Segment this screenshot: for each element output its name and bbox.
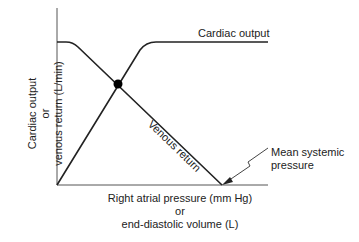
y-axis-label: Cardiac output or venous return (L/min) bbox=[26, 29, 65, 199]
msp-pointer-arrow bbox=[228, 148, 268, 181]
x-axis-label: Right atrial pressure (mm Hg) or end-dia… bbox=[90, 192, 270, 231]
msp-label-line2: pressure bbox=[271, 159, 344, 172]
mean-systemic-pressure-label: Mean systemic pressure bbox=[271, 146, 344, 172]
y-axis-label-line2: or bbox=[39, 29, 52, 199]
equilibrium-point bbox=[114, 80, 123, 89]
y-axis-label-line3: venous return (L/min) bbox=[52, 29, 65, 199]
msp-label-line1: Mean systemic bbox=[271, 146, 344, 159]
x-axis-label-line2: or bbox=[90, 205, 270, 218]
y-axis-label-line1: Cardiac output bbox=[26, 29, 39, 199]
cardiac-output-label: Cardiac output bbox=[198, 27, 270, 40]
x-axis-label-line1: Right atrial pressure (mm Hg) bbox=[90, 192, 270, 205]
cardiac-output-curve bbox=[57, 42, 268, 185]
x-axis-label-line3: end-diastolic volume (L) bbox=[90, 218, 270, 231]
